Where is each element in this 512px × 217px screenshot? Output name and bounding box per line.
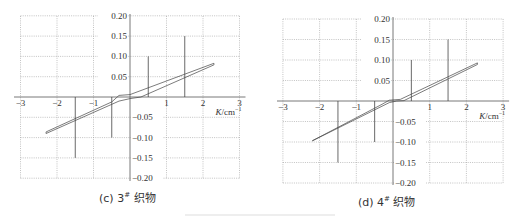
x-tick-label: −2	[315, 102, 325, 112]
caption-d-suffix: 织物	[390, 196, 416, 209]
chart-c-plot: −3−2−11230.200.150.100.05−0.05−0.10−0.15…	[0, 0, 256, 217]
y-tick-label: 0.20	[374, 14, 390, 24]
y-tick-label: −0.10	[395, 137, 416, 147]
y-tick-label: −0.05	[395, 117, 416, 127]
y-tick-label: 0.05	[111, 72, 127, 82]
y-tick-label: −0.05	[132, 112, 153, 122]
y-tick-label: −0.20	[132, 173, 153, 183]
caption-c-suffix: 织物	[130, 192, 156, 205]
x-tick-label: −2	[52, 98, 62, 108]
caption-c-prefix: (c) 3	[99, 192, 124, 205]
y-tick-label: 0.10	[111, 51, 127, 61]
y-tick-label: 0.05	[374, 76, 390, 86]
cropped-figure-caption	[185, 214, 335, 216]
caption-c: (c) 3# 织物	[99, 189, 156, 205]
x-tick-label: 1	[427, 102, 432, 112]
y-tick-label: 0.20	[111, 11, 127, 21]
chart-d-plot: −3−2−11230.200.150.100.05−0.05−0.10−0.15…	[256, 0, 512, 217]
y-tick-label: −0.15	[395, 158, 416, 168]
x-tick-label: 2	[201, 98, 206, 108]
x-axis-label: K/cm−1	[215, 106, 242, 117]
x-tick-label: −1	[89, 98, 99, 108]
x-tick-label: 2	[464, 102, 469, 112]
x-tick-label: −3	[278, 102, 288, 112]
curve-upper-branch	[312, 63, 477, 141]
y-tick-label: 0.10	[374, 55, 390, 65]
y-tick-label: −0.15	[132, 153, 153, 163]
y-tick-label: −0.20	[395, 178, 416, 188]
chart-panel-d: −3−2−11230.200.150.100.05−0.05−0.10−0.15…	[256, 0, 512, 217]
x-tick-label: −3	[16, 98, 26, 108]
x-tick-label: −1	[352, 102, 362, 112]
y-tick-label: −0.10	[132, 133, 153, 143]
curve-lower-branch	[312, 65, 477, 141]
x-axis-label: K/cm−1	[478, 110, 505, 121]
caption-d-prefix: (d) 4	[358, 196, 384, 209]
chart-panel-c: −3−2−11230.200.150.100.05−0.05−0.10−0.15…	[0, 0, 256, 217]
caption-d: (d) 4# 织物	[358, 193, 415, 209]
y-tick-label: 0.15	[374, 35, 390, 45]
x-tick-label: 1	[164, 98, 169, 108]
y-tick-label: 0.15	[111, 31, 127, 41]
